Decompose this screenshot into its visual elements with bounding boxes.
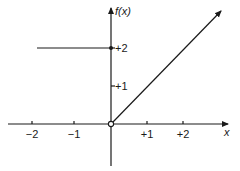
piecewise-function-graph: −2 −1 +1 +2 +1 +2 x f(x) [0,0,240,171]
x-axis-label: x [223,126,230,138]
open-endpoint-circle [108,121,113,126]
filled-endpoint-dot [109,46,113,50]
x-tick-label-neg1: −1 [68,128,81,140]
x-tick-label-neg2: −2 [26,128,39,140]
y-axis-label: f(x) [115,5,131,17]
y-tick-label-pos2: +2 [115,42,128,54]
x-tick-label-pos2: +2 [177,128,190,140]
x-tick-label-pos1: +1 [141,128,154,140]
series-linear-ray [113,11,221,122]
y-tick-label-pos1: +1 [115,80,128,92]
